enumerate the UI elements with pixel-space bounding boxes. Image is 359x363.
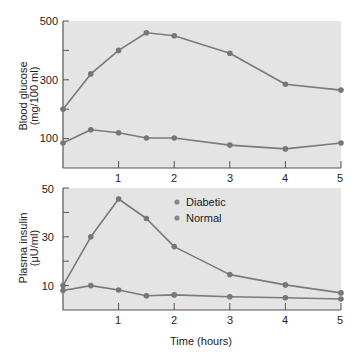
insulin-diabetic-point [60,288,66,294]
insulin-ytick-10: 10 [42,280,54,292]
glucose-normal-point [227,142,233,148]
insulin-xtick-3: 3 [227,314,233,326]
glucose-xtick-5: 5 [337,172,343,184]
insulin-normal-point [283,282,289,288]
legend-normal-label: Normal [186,212,221,224]
legend-diabetic-label: Diabetic [186,196,226,208]
glucose-normal-point [60,140,66,146]
insulin-normal-point [88,234,94,240]
insulin-ytick-30: 30 [42,231,54,243]
insulin-ylabel: Plasma insulin (μU/ml) [17,213,40,284]
glucose-plot-area [63,21,341,168]
insulin-normal-point [171,244,177,250]
insulin-diabetic-point [144,293,150,299]
glucose-ytick-500: 500 [40,15,58,27]
glucose-normal-point [144,135,150,141]
insulin-diabetic-point [88,283,94,289]
insulin-normal-point [60,283,66,289]
insulin-xtick-2: 2 [171,314,177,326]
insulin-diabetic-point [171,292,177,298]
glucose-diabetic-point [60,106,66,112]
glucose-diabetic-point [116,48,122,54]
insulin-xtick-5: 5 [337,314,343,326]
glucose-normal-point [338,140,344,146]
insulin-diabetic-point [116,287,122,293]
insulin-panel: 50 30 10 Plasma insulin (μU/ml) 1 2 3 4 … [17,183,344,347]
glucose-xtick-2: 2 [171,172,177,184]
insulin-xtick-4: 4 [282,314,288,326]
glucose-ylabel: Blood glucose (mg/100 ml) [17,61,40,130]
insulin-diabetic-point [227,294,233,300]
glucose-normal-point [116,130,122,136]
insulin-normal-point [227,272,233,278]
insulin-ytick-50: 50 [42,183,54,195]
glucose-diabetic-point [171,33,177,39]
glucose-ytick-100: 100 [40,132,58,144]
glucose-xtick-3: 3 [227,172,233,184]
glucose-xtick-4: 4 [282,172,288,184]
glucose-diabetic-point [88,71,94,77]
insulin-normal-point [338,290,344,296]
glucose-normal-point [171,135,177,141]
glucose-diabetic-point [338,87,344,93]
insulin-normal-point [144,216,150,222]
legend-normal-marker [174,215,179,220]
glucose-normal-point [88,127,94,133]
glucose-diabetic-point [144,30,150,36]
insulin-normal-point [116,196,122,202]
glucose-diabetic-point [227,51,233,57]
legend-diabetic-marker [174,199,179,204]
glucose-diabetic-point [283,81,289,87]
glucose-ytick-300: 300 [40,74,58,86]
time-axis-title: Time (hours) [170,335,232,347]
chart-canvas: 500 300 100 Blood glucose (mg/100 ml) 1 … [0,0,359,363]
insulin-diabetic-point [283,295,289,301]
insulin-diabetic-point [338,296,344,302]
glucose-panel: 500 300 100 Blood glucose (mg/100 ml) 1 … [17,15,344,184]
glucose-ylabel-line2: (mg/100 ml) [28,67,40,126]
glucose-xtick-1: 1 [115,172,121,184]
glucose-normal-point [283,146,289,152]
glucose-xtick-labels: 1 2 3 4 5 [115,172,343,184]
insulin-ylabel-line2: (μU/ml) [28,230,40,266]
insulin-xtick-labels: 1 2 3 4 5 [115,314,343,326]
figure: 500 300 100 Blood glucose (mg/100 ml) 1 … [0,0,359,363]
insulin-xtick-1: 1 [115,314,121,326]
